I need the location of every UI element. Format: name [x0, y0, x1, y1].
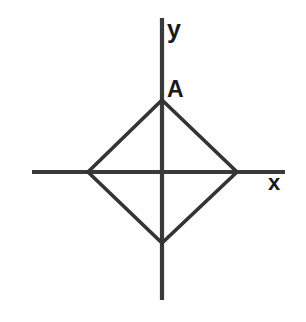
- x-axis-label: x: [268, 172, 280, 194]
- geometry-canvas: [0, 0, 306, 322]
- y-axis-label: y: [167, 17, 181, 42]
- geometry-figure: y x A: [0, 0, 306, 322]
- vertex-label-a: A: [167, 78, 184, 101]
